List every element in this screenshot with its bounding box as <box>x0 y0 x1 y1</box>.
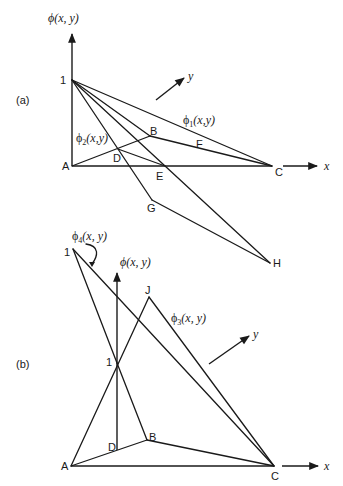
point-a-label: A <box>62 160 70 172</box>
edge-b-c <box>150 136 272 166</box>
apex-center-label-b: 1 <box>106 356 112 368</box>
point-g-label: G <box>147 202 156 214</box>
phi3-label: ϕ3(x, y) <box>171 311 206 327</box>
point-f-label: F <box>196 138 203 150</box>
edge-g-h <box>152 200 270 263</box>
y-axis-arrow-b <box>209 336 249 364</box>
edge-center-b <box>117 363 147 440</box>
panel-a: ϕ(x, y) 1 (a) y x A B C D E F G H ϕ1(x,y… <box>16 11 330 269</box>
panel-b: ϕ(x, y) 1 1 (b) y x A B C D J ϕ3(x, y) ϕ… <box>16 229 330 482</box>
phi4-pointer-head <box>89 262 95 267</box>
apex-left-label-b: 1 <box>64 246 70 258</box>
apex-label-a: 1 <box>60 74 66 86</box>
panel-tag-a: (a) <box>16 94 29 106</box>
edge-d-e <box>118 149 165 166</box>
edge-b-c-b <box>147 440 274 466</box>
edge-apex4-c <box>73 249 274 466</box>
phi4-pointer <box>86 244 97 264</box>
point-c-label: C <box>275 166 283 178</box>
y-axis-label-b: y <box>252 327 259 341</box>
y-axis-label-a: y <box>187 69 194 83</box>
phi1-label: ϕ1(x,y) <box>183 113 215 129</box>
point-h-label: H <box>273 257 281 269</box>
x-axis-label-b: x <box>323 459 330 473</box>
point-d-label-b: D <box>108 441 116 453</box>
x-axis-label-a: x <box>323 159 330 173</box>
edge-j-c <box>149 297 274 466</box>
edge-apex-c <box>72 80 272 166</box>
point-b-label: B <box>150 125 157 137</box>
phi4-label: ϕ4(x, y) <box>72 229 107 245</box>
phi-axis-label-b: ϕ(x, y) <box>120 255 151 269</box>
point-a-label-b: A <box>61 460 69 472</box>
shape-function-diagram: ϕ(x, y) 1 (a) y x A B C D E F G H ϕ1(x,y… <box>0 0 343 486</box>
point-c-label-b: C <box>271 470 279 482</box>
phi-axis-label-a: ϕ(x, y) <box>48 11 79 25</box>
panel-tag-b: (b) <box>16 358 29 370</box>
point-d-label: D <box>113 152 121 164</box>
phi2-label: ϕ2(x,y) <box>76 131 108 147</box>
point-e-label: E <box>156 170 163 182</box>
edge-apex4-center <box>73 249 117 363</box>
y-axis-arrow-a <box>156 78 184 100</box>
point-j-label-b: J <box>145 284 151 296</box>
point-b-label-b: B <box>149 431 156 443</box>
